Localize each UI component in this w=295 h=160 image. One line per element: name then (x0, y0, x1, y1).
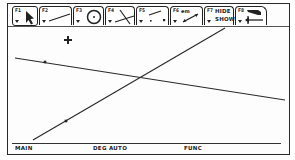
point-on-falling-line[interactable] (44, 61, 47, 64)
falling-line[interactable] (15, 58, 285, 100)
geometry-canvas[interactable] (0, 0, 295, 160)
rising-line[interactable] (33, 28, 225, 140)
point-on-rising-line[interactable] (65, 120, 68, 123)
crosshair-plus-icon (64, 36, 72, 44)
